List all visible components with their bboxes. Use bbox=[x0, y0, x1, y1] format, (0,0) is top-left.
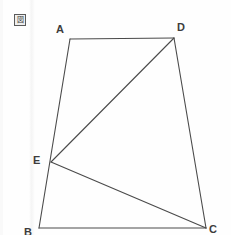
diagram-canvas bbox=[0, 0, 231, 235]
geometry-figure: 図 A D E B C bbox=[0, 0, 231, 235]
vertex-label-a: A bbox=[56, 24, 64, 35]
vertex-label-d: D bbox=[177, 22, 185, 33]
vertex-label-e: E bbox=[33, 155, 40, 166]
edge-ba bbox=[39, 39, 70, 228]
diagonal-ec bbox=[51, 162, 206, 228]
diagonal-ed bbox=[51, 38, 174, 162]
vertex-label-c: C bbox=[209, 224, 217, 235]
edge-ad bbox=[70, 38, 174, 39]
vertex-label-b: B bbox=[24, 227, 32, 235]
edge-dc bbox=[174, 38, 206, 228]
